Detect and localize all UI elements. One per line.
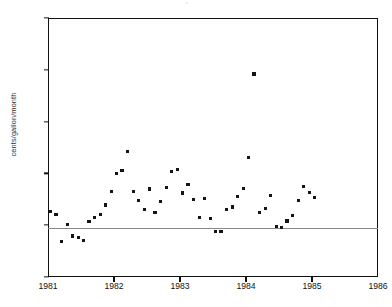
data-point (302, 185, 305, 188)
data-point (93, 216, 96, 219)
data-point (269, 194, 272, 197)
data-point (99, 213, 102, 216)
data-point (137, 199, 140, 202)
data-point (242, 187, 245, 190)
data-point (203, 197, 206, 200)
data-point (126, 150, 129, 153)
data-point (54, 213, 57, 216)
data-point (186, 183, 189, 186)
x-tick-mark-2 (179, 277, 180, 282)
data-point (275, 225, 278, 228)
x-tick-mark-3 (245, 277, 246, 282)
y-tick-mark-1 (44, 225, 49, 226)
data-point (115, 172, 118, 175)
data-point (165, 186, 168, 189)
data-point (308, 191, 311, 194)
data-point (258, 211, 261, 214)
data-point (132, 190, 135, 193)
data-point (192, 198, 195, 201)
plot-frame (48, 18, 378, 277)
data-point (148, 187, 151, 190)
x-tick-mark-4 (311, 277, 312, 282)
data-point (66, 223, 69, 226)
data-point (247, 156, 250, 159)
x-tick-label-4: 1985 (292, 281, 332, 291)
data-point (143, 208, 146, 211)
data-point (87, 220, 90, 223)
data-point (285, 219, 288, 222)
data-point (280, 226, 283, 229)
data-point (104, 203, 107, 206)
data-point (110, 190, 113, 193)
data-point (219, 230, 222, 233)
zero-reference-line (48, 228, 378, 229)
y-tick-mark-0 (44, 276, 49, 277)
x-tick-label-3: 1984 (226, 281, 266, 291)
data-point (198, 216, 201, 219)
data-point (181, 191, 184, 194)
x-tick-label-2: 1983 (160, 281, 200, 291)
x-tick-label-1: 1982 (94, 281, 134, 291)
cropped-caption-artifact: ▫ (183, 0, 190, 5)
data-point (225, 208, 228, 211)
x-tick-label-5: 1986 (358, 281, 392, 291)
data-point (77, 236, 80, 239)
data-point (71, 234, 74, 237)
y-tick-mark-3 (44, 121, 49, 122)
y-tick-mark-4 (44, 69, 49, 70)
data-point (153, 211, 156, 214)
data-point (231, 205, 234, 208)
data-point (291, 214, 294, 217)
data-point (170, 170, 173, 173)
data-point (120, 169, 123, 172)
data-point (236, 195, 239, 198)
data-point (252, 72, 255, 75)
x-tick-label-0: 1981 (28, 281, 68, 291)
data-point (214, 230, 217, 233)
data-point (313, 196, 316, 199)
y-axis-title: cents/gallon/month (9, 70, 18, 180)
data-point (159, 200, 162, 203)
data-point (60, 240, 63, 243)
data-point (176, 168, 179, 171)
x-tick-mark-1 (113, 277, 114, 282)
data-point (264, 207, 267, 210)
data-point (209, 217, 212, 220)
data-point (49, 210, 52, 213)
data-point (82, 239, 85, 242)
data-point (297, 199, 300, 202)
y-tick-mark-5 (44, 17, 49, 18)
y-tick-mark-2 (44, 173, 49, 174)
